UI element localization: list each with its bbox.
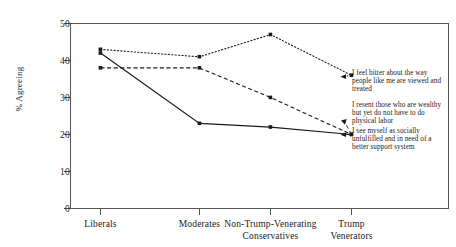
series-markers-socially-unfulfilled (99, 51, 354, 136)
series-markers-resent-wealthy (99, 66, 354, 136)
legend-item-bitter-viewed-treated: I feel bitter about the way people like … (352, 69, 448, 94)
y-axis-tick-labels: 50 40 30 20 10 0 (42, 0, 70, 247)
y-tick-0: 0 (44, 204, 70, 214)
x-axis-ticks (101, 209, 352, 216)
legend-item-resent-wealthy: I resent those who are wealthy but yet d… (352, 101, 448, 126)
legend-item-socially-unfulfilled: I see myself as socially unfulfilled and… (352, 127, 448, 152)
y-tick-30: 30 (44, 93, 70, 103)
x-tick-trump-venerators: Trump Venerators (307, 219, 397, 242)
y-tick-50: 50 (44, 19, 70, 29)
legend-leader-lines (341, 74, 352, 137)
series-line-socially-unfulfilled (101, 53, 352, 134)
y-axis-label: % Agreeing (14, 44, 24, 134)
y-tick-20: 20 (44, 130, 70, 140)
chart-container: % Agreeing 50 40 30 20 10 0 Liberals Mod… (0, 0, 456, 247)
series-markers-bitter-viewed-treated (99, 33, 354, 77)
x-tick-liberals: Liberals (56, 219, 146, 231)
series-line-bitter-viewed-treated (101, 35, 352, 76)
y-tick-10: 10 (44, 167, 70, 177)
y-tick-40: 40 (44, 56, 70, 66)
